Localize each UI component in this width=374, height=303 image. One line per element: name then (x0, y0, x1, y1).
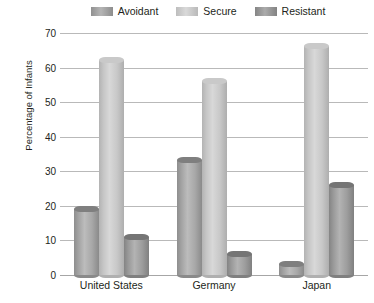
legend-swatch-avoidant (91, 7, 113, 16)
bar-body (304, 46, 329, 275)
bar-united-states-avoidant[interactable] (74, 206, 99, 275)
bar-group-united-states (60, 33, 163, 275)
legend-label-resistant: Resistant (282, 6, 326, 17)
y-tick-label-30: 30 (45, 166, 56, 177)
y-tick-label-60: 60 (45, 62, 56, 73)
legend-swatch-resistant (255, 7, 277, 16)
bar-body (74, 209, 99, 275)
bar-body (227, 254, 252, 275)
bar-germany-avoidant[interactable] (177, 157, 202, 275)
bar-body (177, 160, 202, 275)
bar-top-ellipse (124, 234, 149, 240)
bar-united-states-secure[interactable] (99, 57, 124, 275)
bar-top-ellipse (99, 57, 124, 63)
legend-item-secure[interactable]: Secure (176, 6, 236, 17)
y-tick-label-40: 40 (45, 131, 56, 142)
y-tick-label-0: 0 (50, 270, 56, 281)
bar-japan-avoidant[interactable] (279, 261, 304, 275)
bar-germany-secure[interactable] (202, 78, 227, 275)
plot-area (60, 33, 368, 275)
legend-swatch-secure (176, 7, 198, 16)
y-tick-label-20: 20 (45, 200, 56, 211)
bar-body (202, 81, 227, 275)
x-axis-tick-labels: United StatesGermanyJapan (60, 279, 368, 291)
bar-united-states-resistant[interactable] (124, 234, 149, 275)
bar-group-japan (265, 33, 368, 275)
bar-top-ellipse (202, 78, 227, 84)
x-tick-label-japan: Japan (265, 279, 368, 291)
y-tick-label-10: 10 (45, 235, 56, 246)
y-tick-label-50: 50 (45, 97, 56, 108)
bar-top-ellipse (329, 182, 354, 188)
bar-body (99, 60, 124, 275)
legend-label-avoidant: Avoidant (118, 6, 159, 17)
legend-item-resistant[interactable]: Resistant (255, 6, 326, 17)
bar-japan-secure[interactable] (304, 43, 329, 275)
bar-top-ellipse (279, 261, 304, 267)
bar-body (329, 185, 354, 275)
bar-top-ellipse (304, 43, 329, 49)
y-tick-label-70: 70 (45, 28, 56, 39)
bar-germany-resistant[interactable] (227, 251, 252, 275)
chart-legend: Avoidant Secure Resistant (0, 0, 374, 22)
x-tick-label-united-states: United States (60, 279, 163, 291)
bar-groups (60, 33, 368, 275)
bar-body (124, 237, 149, 275)
bar-top-ellipse (177, 157, 202, 163)
y-axis-tick-labels: 010203040506070 (30, 33, 56, 275)
x-tick-label-germany: Germany (163, 279, 266, 291)
bar-top-ellipse (74, 206, 99, 212)
legend-item-avoidant[interactable]: Avoidant (91, 6, 159, 17)
bar-japan-resistant[interactable] (329, 182, 354, 275)
legend-label-secure: Secure (203, 6, 236, 17)
bar-chart: Avoidant Secure Resistant Percentage of … (0, 0, 374, 303)
bar-group-germany (163, 33, 266, 275)
bar-top-ellipse (227, 251, 252, 257)
